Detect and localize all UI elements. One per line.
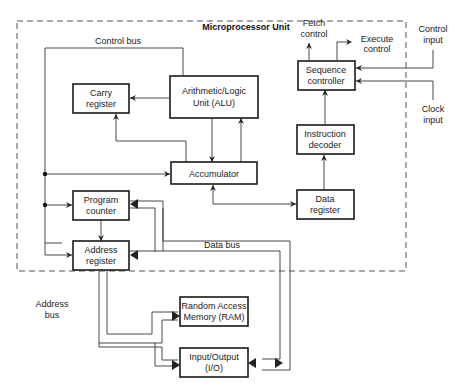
junction-dot: [43, 203, 47, 207]
arrowhead: [130, 199, 138, 209]
arrowhead: [130, 250, 138, 260]
clock-input-line: [356, 81, 433, 100]
alu-label-1: Arithmetic/Logic: [182, 86, 247, 96]
address-bus-inner: [107, 270, 178, 334]
accumulator-label: Accumulator: [189, 169, 239, 179]
address-bus-label-1: Address: [35, 299, 69, 309]
fetch-label-2: control: [300, 29, 327, 39]
clock-input-label-1: Clock: [422, 104, 445, 114]
address-register-label-1: Address: [84, 245, 118, 255]
alu-block: [170, 76, 258, 118]
data-register-label-2: register: [310, 205, 340, 215]
address-bus-label-2: bus: [45, 310, 60, 320]
address-register-label-2: register: [86, 256, 116, 266]
sequence-label-1: Sequence: [306, 65, 347, 75]
microprocessor-title: Microprocessor Unit: [202, 22, 290, 32]
control-input-label-1: Control: [418, 24, 447, 34]
arrowhead: [275, 358, 283, 368]
program-counter-label-2: counter: [86, 206, 116, 216]
carry-label-2: register: [86, 99, 116, 109]
microprocessor-diagram: Microprocessor Unit Control bus Arithmet…: [0, 0, 456, 391]
execute-label-1: Execute: [361, 34, 394, 44]
data-bus-inner-loop: [130, 201, 163, 251]
program-counter-label-1: Program: [84, 195, 119, 205]
address-bus-ram-lower: [155, 320, 178, 343]
data-bus-label: Data bus: [204, 240, 241, 250]
address-bus-io: [99, 343, 178, 360]
control-bus-label: Control bus: [95, 36, 142, 46]
address-bus-outer: [99, 270, 178, 366]
sequence-label-2: controller: [307, 76, 344, 86]
clock-input-label-2: input: [423, 115, 443, 125]
io-label-line-1: Input/Output: [189, 352, 239, 362]
decoder-label-1: Instruction: [304, 129, 346, 139]
io-label-line-2: (I/O): [205, 363, 223, 373]
execute-control-line: [337, 42, 350, 61]
arrowhead: [172, 311, 180, 321]
arrowhead: [248, 358, 256, 368]
data-register-label-1: Data: [315, 194, 334, 204]
data-bus-inner: [130, 208, 155, 252]
arrowhead: [172, 360, 180, 370]
fetch-label-1: Fetch: [303, 18, 326, 28]
alu-label-2: Unit (ALU): [193, 98, 235, 108]
ram-label-2: Memory (RAM): [184, 312, 245, 322]
data-bus-outer-line: [163, 208, 290, 370]
accumulator-to-carry: [116, 114, 186, 162]
decoder-label-2: decoder: [309, 140, 342, 150]
execute-label-2: control: [363, 44, 390, 54]
junction-dot: [43, 172, 47, 176]
carry-label-1: Carry: [90, 88, 112, 98]
control-input-label-2: input: [423, 35, 443, 45]
ram-label-1: Random Access: [181, 301, 247, 311]
